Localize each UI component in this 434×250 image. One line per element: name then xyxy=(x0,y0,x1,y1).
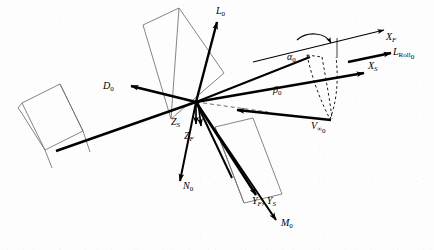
beta-projection-dashed xyxy=(322,57,332,119)
lift-vector xyxy=(196,22,217,102)
label-alpha-angle: α0 xyxy=(287,52,296,64)
label-drag: D0 xyxy=(103,81,114,93)
xs-upper-ray xyxy=(196,57,310,102)
label-yfs-axis: YF, YS xyxy=(252,196,276,208)
label-lift: L0 xyxy=(216,6,225,18)
left-wing-extension xyxy=(45,150,52,168)
lower-wing-panel xyxy=(215,118,282,203)
aerodynamic-diagram-figure: L0 D0 N0 M0 LRoll0 XF XS ZS ZF YF, YS α0… xyxy=(0,0,434,250)
label-pitching-moment: M0 xyxy=(281,218,293,230)
label-zs-axis: ZS xyxy=(171,117,180,129)
label-xs-axis: XS xyxy=(368,61,378,73)
label-normal-force: N0 xyxy=(183,181,193,193)
yfs-axis-vector xyxy=(196,102,256,195)
diagram-canvas xyxy=(0,0,434,250)
alpha-projection-dashed xyxy=(307,55,330,119)
label-roll-moment: LRoll0 xyxy=(393,47,414,61)
label-beta-angle: β0 xyxy=(273,85,281,97)
left-wing-rib xyxy=(60,84,83,131)
label-zf-axis: ZF xyxy=(184,131,194,143)
left-wing-tip-fold xyxy=(18,103,45,150)
upper-wing-panel xyxy=(143,8,224,119)
upper-wing-rib xyxy=(171,8,179,119)
label-xf-axis: XF xyxy=(386,32,396,44)
roll-curved-arrow xyxy=(297,34,331,43)
drag-vector xyxy=(131,86,196,102)
left-wing-panel xyxy=(22,84,83,150)
reference-dashed-line xyxy=(196,102,268,112)
force-vectors xyxy=(56,22,391,220)
label-freestream-velocity: V∞0 xyxy=(311,121,326,135)
lower-right-spar-vector xyxy=(196,102,232,178)
